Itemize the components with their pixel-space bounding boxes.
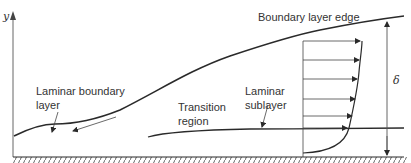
- diagram-graphics: [0, 0, 411, 163]
- thickness-label: δ: [393, 74, 400, 87]
- sublayer-label-line2: sublayer: [245, 99, 287, 112]
- boundary-layer-edge-curve: [14, 16, 404, 136]
- transition-label-line2: region: [178, 115, 209, 128]
- transition-label-line1: Transition: [178, 101, 226, 114]
- boundary-layer-diagram: y Boundary layer edge Laminar boundary l…: [0, 0, 411, 163]
- y-axis-label: y: [3, 10, 9, 23]
- laminar-leader: [52, 112, 58, 132]
- wall-surface: [12, 157, 407, 163]
- sublayer-label-line1: Laminar: [245, 85, 285, 98]
- laminar-sublayer-curve: [148, 128, 404, 137]
- laminar-label-line2: layer: [36, 99, 60, 112]
- edge-label: Boundary layer edge: [258, 11, 360, 24]
- laminar-label-line1: Laminar boundary: [36, 85, 125, 98]
- velocity-profile: [303, 41, 362, 157]
